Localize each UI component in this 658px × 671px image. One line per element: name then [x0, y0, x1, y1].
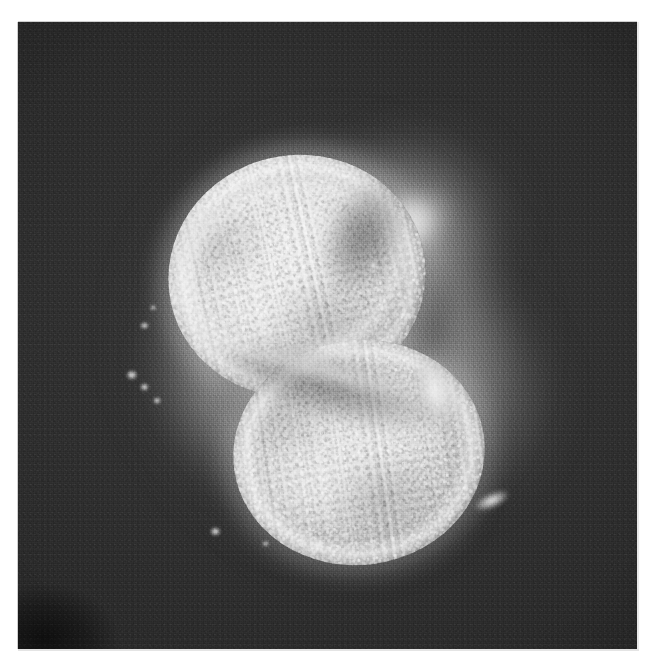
image-alt-text: Grayscale phase-contrast micrograph of a… — [0, 0, 1, 1]
screenshot-canvas: Grayscale phase-contrast micrograph of a… — [0, 0, 658, 671]
print-edge-bottom — [18, 649, 639, 651]
micrograph-image — [18, 22, 637, 649]
field-vignette — [18, 22, 637, 649]
print-edge-right — [637, 22, 639, 649]
